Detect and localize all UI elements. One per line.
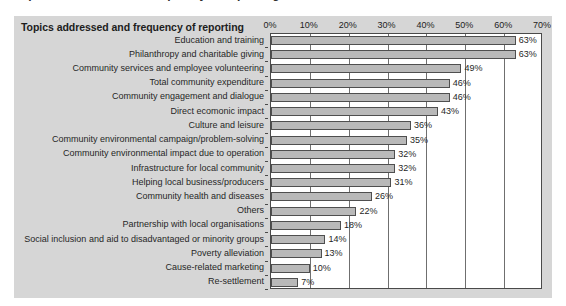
- bar-row: 14%: [271, 233, 541, 247]
- chart-panel: Topics addressed and frequency of report…: [14, 16, 552, 298]
- x-tick-label: 30%: [378, 20, 396, 30]
- bar-row: 31%: [271, 176, 541, 190]
- axis-tick-mark: [265, 275, 268, 276]
- x-tick-label: 40%: [416, 20, 434, 30]
- bar: [271, 178, 391, 187]
- x-tick-label: 70%: [533, 20, 551, 30]
- category-label: Poverty alleviation: [191, 247, 264, 260]
- category-label: Helping local business/producers: [132, 176, 264, 189]
- bar: [271, 93, 450, 102]
- bar-value-label: 32%: [398, 162, 416, 175]
- bar-row: 46%: [271, 91, 541, 105]
- category-label: Others: [237, 204, 264, 217]
- category-label: Community engagement and dialogue: [112, 90, 264, 103]
- bar-row: 49%: [271, 62, 541, 76]
- bar-row: 26%: [271, 190, 541, 204]
- bar-value-label: 13%: [325, 247, 343, 260]
- axis-tick-mark: [265, 76, 268, 77]
- bar-row: 35%: [271, 134, 541, 148]
- axis-tick-mark: [265, 104, 268, 105]
- bar-value-label: 46%: [453, 91, 471, 104]
- bar: [271, 79, 450, 88]
- category-axis-labels: Education and trainingPhilanthropy and c…: [20, 33, 268, 289]
- category-label: Philanthropy and charitable giving: [129, 48, 264, 61]
- bar: [271, 36, 516, 45]
- axis-tick-mark: [265, 147, 268, 148]
- axis-tick-mark: [265, 246, 268, 247]
- category-label: Cause-related marketing: [165, 261, 264, 274]
- bar-row: 10%: [271, 262, 541, 276]
- x-tick-label: 10%: [300, 20, 318, 30]
- bar-row: 46%: [271, 77, 541, 91]
- axis-tick-mark: [265, 261, 268, 262]
- bar: [271, 164, 395, 173]
- bar-value-label: 43%: [441, 105, 459, 118]
- x-tick-label: 60%: [494, 20, 512, 30]
- category-label: Direct ecomonic impact: [170, 105, 264, 118]
- bar-value-label: 63%: [519, 48, 537, 61]
- axis-tick-mark: [265, 189, 268, 190]
- bar: [271, 107, 438, 116]
- bar-row: 7%: [271, 276, 541, 290]
- bar-value-label: 36%: [414, 119, 432, 132]
- bar-row: 36%: [271, 119, 541, 133]
- bar: [271, 264, 310, 273]
- axis-tick-mark: [265, 133, 268, 134]
- bar-value-label: 14%: [328, 233, 346, 246]
- clipped-caption-strip: Topics addressed and frequency of report…: [0, 0, 566, 14]
- bar-row: 63%: [271, 48, 541, 62]
- bar: [271, 278, 298, 287]
- bar-row: 32%: [271, 148, 541, 162]
- axis-tick-mark: [265, 118, 268, 119]
- bar-value-label: 35%: [410, 134, 428, 147]
- bar-value-label: 32%: [398, 148, 416, 161]
- axis-tick-mark: [265, 47, 268, 48]
- category-label: Community health and diseases: [136, 190, 264, 203]
- bar: [271, 150, 395, 159]
- x-tick-label: 50%: [455, 20, 473, 30]
- chart-header-title: Topics addressed and frequency of report…: [21, 21, 244, 33]
- bar-value-label: 63%: [519, 34, 537, 47]
- clipped-caption-text: Topics addressed and frequency of report…: [14, 0, 280, 1]
- bar-value-label: 26%: [375, 190, 393, 203]
- category-label: Social inclusion and aid to disadvantage…: [24, 233, 264, 246]
- bar: [271, 249, 322, 258]
- bar-value-label: 22%: [359, 205, 377, 218]
- category-label: Community environmental campaign/problem…: [52, 133, 264, 146]
- category-label: Community environmental impact due to op…: [63, 147, 264, 160]
- axis-tick-mark: [265, 232, 268, 233]
- axis-tick-mark: [265, 289, 268, 290]
- x-tick-label: 20%: [339, 20, 357, 30]
- bar: [271, 50, 516, 59]
- axis-tick-mark: [265, 90, 268, 91]
- bar: [271, 136, 407, 145]
- category-label: Partnership with local organisations: [122, 218, 264, 231]
- bar: [271, 207, 356, 216]
- axis-tick-mark: [265, 161, 268, 162]
- category-label: Community services and employee voluntee…: [72, 62, 264, 75]
- bar-row: 22%: [271, 205, 541, 219]
- category-label: Re-settlement: [208, 275, 264, 288]
- category-label: Infrastructure for local community: [131, 162, 264, 175]
- bar: [271, 235, 325, 244]
- axis-tick-mark: [265, 204, 268, 205]
- axis-tick-mark: [265, 61, 268, 62]
- bar-row: 18%: [271, 219, 541, 233]
- axis-tick-mark: [265, 218, 268, 219]
- bar-value-label: 7%: [301, 276, 314, 289]
- category-label: Education and training: [174, 34, 264, 47]
- bar-value-label: 31%: [394, 176, 412, 189]
- bar: [271, 64, 461, 73]
- category-label: Total community expenditure: [149, 76, 264, 89]
- bar: [271, 121, 411, 130]
- category-label: Culture and leisure: [188, 119, 264, 132]
- axis-tick-mark: [265, 175, 268, 176]
- bar-row: 32%: [271, 162, 541, 176]
- bar-value-label: 18%: [344, 219, 362, 232]
- bar-row: 43%: [271, 105, 541, 119]
- bar-value-label: 46%: [453, 77, 471, 90]
- bar-row: 63%: [271, 34, 541, 48]
- x-tick-label: 0%: [263, 20, 276, 30]
- bar-value-label: 10%: [313, 262, 331, 275]
- bar: [271, 192, 372, 201]
